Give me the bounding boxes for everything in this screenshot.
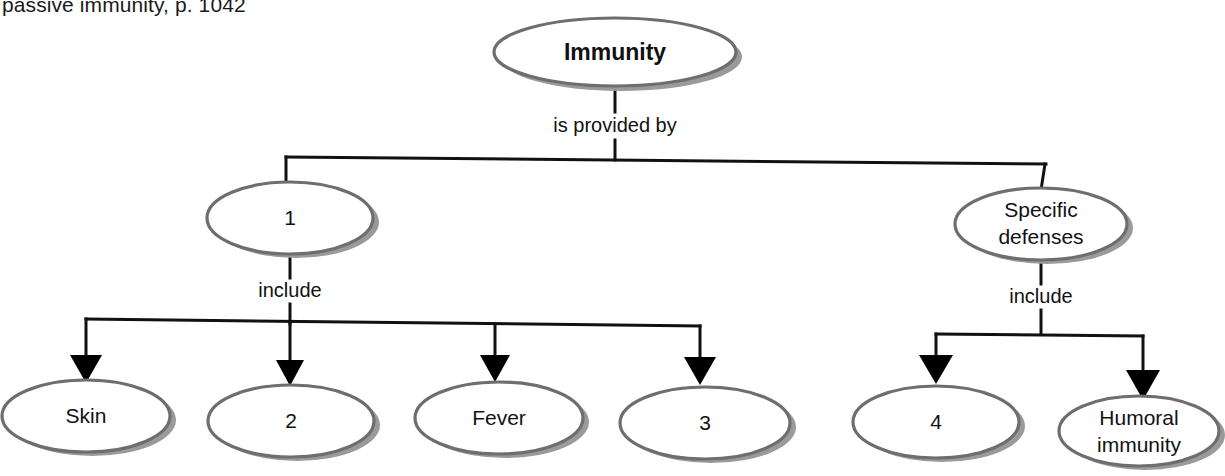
node-specific-defenses-label-line1: Specific: [1004, 198, 1078, 221]
link-label-is-provided-by: is provided by: [553, 114, 676, 136]
link-label-layer: is provided by include include: [258, 114, 1072, 307]
node-4-label: 4: [930, 410, 942, 433]
arrowhead-layer: [70, 355, 1160, 400]
node-humoral-immunity-label-line1: Humoral: [1099, 406, 1178, 429]
node-2-label: 2: [285, 409, 297, 432]
node-4[interactable]: 4: [853, 386, 1025, 462]
node-humoral-immunity-label-line2: immunity: [1097, 433, 1182, 456]
connector-to-specific-defenses: [1041, 164, 1045, 190]
node-fever-label: Fever: [472, 406, 526, 429]
node-fever[interactable]: Fever: [415, 382, 589, 458]
concept-map-canvas: passive immunity, p. 1042: [0, 0, 1225, 476]
connector-left-children-bar: [86, 319, 700, 326]
node-specific-defenses-label-line2: defenses: [998, 225, 1083, 248]
node-1-label: 1: [284, 206, 296, 229]
arrowhead-node-3: [684, 357, 716, 385]
node-specific-defenses[interactable]: Specific defenses: [955, 188, 1133, 264]
node-immunity[interactable]: Immunity: [494, 18, 742, 91]
connector-right-children-bar: [936, 334, 1143, 336]
arrowhead-node-4: [919, 355, 953, 384]
node-humoral-immunity[interactable]: Humoral immunity: [1059, 396, 1225, 470]
connector-level1-bar: [286, 157, 1046, 164]
page-reference-text: passive immunity, p. 1042: [2, 0, 246, 17]
link-label-include-left: include: [258, 279, 321, 301]
concept-map-svg: is provided by include include Immunity …: [0, 0, 1225, 476]
node-immunity-label: Immunity: [564, 39, 666, 65]
node-2[interactable]: 2: [208, 385, 380, 461]
arrowhead-fever: [480, 355, 510, 382]
node-1[interactable]: 1: [207, 182, 379, 258]
arrowhead-node-2: [276, 360, 304, 386]
link-label-include-right: include: [1009, 285, 1072, 307]
node-skin[interactable]: Skin: [2, 380, 176, 456]
node-3-label: 3: [699, 411, 711, 434]
node-skin-label: Skin: [66, 404, 107, 427]
node-3[interactable]: 3: [620, 387, 796, 463]
